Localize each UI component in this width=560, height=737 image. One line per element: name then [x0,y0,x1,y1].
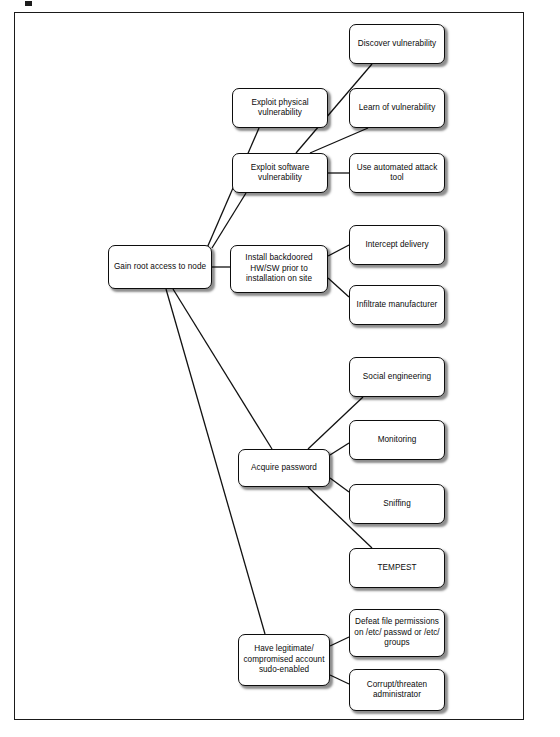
node-label: Learn of vulnerability [354,103,440,113]
node-auto-tool[interactable]: Use automated attack tool [349,153,445,193]
node-tempest[interactable]: TEMPEST [349,548,445,588]
node-label: Exploit software vulnerability [237,163,323,184]
node-social-eng[interactable]: Social engineering [349,357,445,397]
node-install-backdoor[interactable]: Install backdoored HW/SW prior to instal… [230,245,328,293]
node-have-account[interactable]: Have legitimate/ compromised account sud… [238,634,330,686]
node-infiltrate[interactable]: Infiltrate manufacturer [349,285,445,325]
node-label: Have legitimate/ compromised account sud… [243,644,325,675]
node-exploit-phys[interactable]: Exploit physical vulnerability [232,88,328,128]
node-sniffing[interactable]: Sniffing [349,484,445,524]
node-intercept[interactable]: Intercept delivery [349,225,445,265]
node-label: Sniffing [354,499,440,509]
node-label: Monitoring [354,435,440,445]
node-label: Intercept delivery [354,240,440,250]
node-root[interactable]: Gain root access to node [108,245,212,289]
node-discover-vuln[interactable]: Discover vulnerability [349,24,445,64]
node-exploit-sw[interactable]: Exploit software vulnerability [232,153,328,193]
node-acquire-pass[interactable]: Acquire password [238,449,330,487]
node-label: Gain root access to node [113,262,207,272]
node-corrupt-admin[interactable]: Corrupt/threaten administrator [349,669,445,711]
node-label: Corrupt/threaten administrator [354,680,440,701]
node-monitoring[interactable]: Monitoring [349,420,445,460]
node-label: Acquire password [243,463,325,473]
scan-artifact-speck [25,1,32,6]
node-defeat-perms[interactable]: Defeat file permissions on /etc/ passwd … [349,609,445,657]
node-label: Defeat file permissions on /etc/ passwd … [354,617,440,648]
node-label: Infiltrate manufacturer [354,300,440,310]
node-label: Install backdoored HW/SW prior to instal… [235,253,323,284]
attack-tree-diagram: Gain root access to nodeExploit physical… [0,0,560,737]
node-label: Use automated attack tool [354,163,440,184]
node-label: TEMPEST [354,563,440,573]
node-learn-vuln[interactable]: Learn of vulnerability [349,88,445,128]
node-label: Exploit physical vulnerability [237,98,323,119]
node-label: Discover vulnerability [354,39,440,49]
node-label: Social engineering [354,372,440,382]
